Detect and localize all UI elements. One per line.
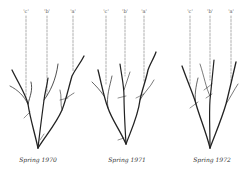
caption-1970: Spring 1970 <box>8 156 68 163</box>
pruning-diagram: 'c' 'b' 'a' 'c' 'b' 'a' 'c' 'b' 'a' Spri… <box>0 0 252 176</box>
shrub-1971 <box>92 16 156 144</box>
branch-label-b-1972: 'b' <box>203 8 217 14</box>
branch-label-c-1971: 'c' <box>99 8 113 14</box>
branch-label-b-1971: 'b' <box>118 8 132 14</box>
shrub-1970 <box>10 16 84 148</box>
branch-label-c-1972: 'c' <box>183 8 197 14</box>
branch-label-a-1971: 'a' <box>137 8 151 14</box>
branch-label-a-1972: 'a' <box>224 8 238 14</box>
branch-label-a-1970: 'a' <box>66 8 80 14</box>
caption-1971: Spring 1971 <box>97 156 157 163</box>
shrub-drawings <box>0 0 252 176</box>
branch-label-b-1970: 'b' <box>40 8 54 14</box>
shrub-1972 <box>182 16 238 148</box>
branch-label-c-1970: 'c' <box>19 8 33 14</box>
caption-1972: Spring 1972 <box>182 156 242 163</box>
